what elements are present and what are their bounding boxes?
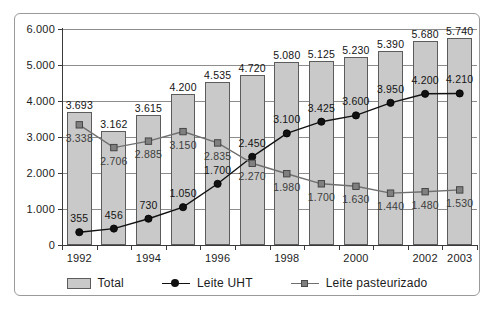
data-point-marker — [111, 144, 117, 150]
data-point-marker — [76, 122, 82, 128]
data-point-marker — [145, 138, 151, 144]
chart-legend: Total Leite UHT Leite pasteurizado — [14, 272, 480, 294]
x-tick-mark — [408, 245, 409, 250]
bar-value-label: 5.740 — [446, 25, 473, 37]
bar-value-label: 5.080 — [273, 49, 300, 61]
data-point-marker — [422, 189, 428, 195]
bar-value-label: 4.200 — [169, 81, 196, 93]
data-point-marker — [456, 90, 463, 97]
legend-swatch-leite-uht-icon — [162, 278, 190, 289]
x-tick-label: 1992 — [67, 252, 92, 264]
data-point-marker — [179, 204, 186, 211]
legend-square-marker-icon — [301, 280, 308, 287]
data-point-label: 1.530 — [446, 197, 473, 209]
data-point-marker — [352, 112, 359, 119]
bar-value-label: 5.125 — [308, 48, 335, 60]
data-point-marker — [422, 90, 429, 97]
data-point-marker — [318, 181, 324, 187]
data-point-label: 3.425 — [308, 102, 335, 114]
data-point-marker — [145, 215, 152, 222]
data-point-marker — [284, 171, 290, 177]
data-point-label: 1.630 — [342, 193, 369, 205]
y-tick-label: 1.000 — [26, 203, 55, 215]
data-point-marker — [457, 187, 463, 193]
data-point-label: 3.100 — [273, 113, 300, 125]
data-point-marker — [110, 225, 117, 232]
bar-value-label: 5.390 — [377, 38, 404, 50]
legend-label-leite-pasteurizado: Leite pasteurizado — [326, 276, 428, 290]
data-point-marker — [387, 99, 394, 106]
data-point-marker — [353, 183, 359, 189]
data-point-label: 2.450 — [239, 137, 266, 149]
x-tick-label: 1994 — [136, 252, 161, 264]
data-point-label: 355 — [70, 212, 88, 224]
data-point-label: 1.480 — [411, 199, 438, 211]
x-tick-mark — [304, 245, 305, 250]
x-tick-mark — [373, 245, 374, 250]
data-point-label: 2.706 — [100, 155, 127, 167]
bar-value-label: 3.162 — [100, 118, 127, 130]
bar-value-label: 5.230 — [342, 44, 369, 56]
x-tick-mark — [235, 245, 236, 250]
data-point-marker — [180, 128, 186, 134]
bar-value-label: 3.615 — [135, 102, 162, 114]
y-tick-label: 6.000 — [26, 23, 55, 35]
data-point-marker — [283, 130, 290, 137]
line-series-overlay — [62, 29, 477, 245]
y-tick-label: 0 — [49, 239, 55, 251]
data-point-marker — [249, 160, 255, 166]
chart-figure: 01.0002.0003.0004.0005.0006.000 3.6933.1… — [0, 0, 494, 312]
legend-item-leite-uht[interactable]: Leite UHT — [162, 276, 253, 290]
x-tick-mark — [97, 245, 98, 250]
data-point-marker — [249, 153, 256, 160]
y-tick-label: 5.000 — [26, 59, 55, 71]
x-tick-mark — [166, 245, 167, 250]
data-point-label: 2.270 — [239, 170, 266, 182]
x-tick-label: 2000 — [343, 252, 368, 264]
data-point-label: 1.980 — [273, 181, 300, 193]
y-tick-label: 3.000 — [26, 131, 55, 143]
y-tick-label: 4.000 — [26, 95, 55, 107]
x-tick-mark — [339, 245, 340, 250]
x-tick-mark — [270, 245, 271, 250]
data-point-label: 3.950 — [377, 83, 404, 95]
data-point-label: 4.210 — [446, 73, 473, 85]
legend-label-leite-uht: Leite UHT — [197, 276, 253, 290]
data-point-label: 1.700 — [204, 164, 231, 176]
data-point-marker — [76, 229, 83, 236]
bar-value-label: 4.535 — [204, 69, 231, 81]
x-tick-label: 1996 — [205, 252, 230, 264]
data-point-label: 4.200 — [411, 74, 438, 86]
legend-item-leite-pasteurizado[interactable]: Leite pasteurizado — [291, 276, 428, 290]
data-point-label: 3.338 — [66, 132, 93, 144]
data-point-label: 1.050 — [169, 187, 196, 199]
legend-label-total: Total — [98, 276, 124, 290]
legend-item-total[interactable]: Total — [67, 276, 124, 290]
x-tick-mark — [477, 245, 478, 250]
x-tick-label: 1998 — [274, 252, 299, 264]
x-tick-mark — [62, 245, 63, 250]
plot-area: 01.0002.0003.0004.0005.0006.000 3.6933.1… — [62, 29, 477, 245]
data-point-marker — [214, 180, 221, 187]
bar-value-label: 5.680 — [411, 28, 438, 40]
legend-circle-marker-icon — [171, 279, 179, 287]
data-point-marker — [318, 118, 325, 125]
x-tick-label: 2003 — [447, 252, 472, 264]
data-point-label: 1.700 — [308, 191, 335, 203]
data-point-label: 1.440 — [377, 200, 404, 212]
bar-value-label: 4.720 — [239, 62, 266, 74]
x-tick-mark — [131, 245, 132, 250]
legend-swatch-leite-pasteurizado-icon — [291, 278, 319, 289]
data-point-label: 3.150 — [169, 139, 196, 151]
legend-swatch-total-icon — [67, 278, 91, 289]
data-point-label: 3.600 — [342, 95, 369, 107]
x-tick-label: 2002 — [412, 252, 437, 264]
x-tick-mark — [442, 245, 443, 250]
data-point-label: 456 — [105, 209, 123, 221]
data-point-label: 730 — [139, 199, 157, 211]
data-point-label: 2.835 — [204, 150, 231, 162]
x-tick-mark — [200, 245, 201, 250]
data-point-label: 2.885 — [135, 148, 162, 160]
data-point-marker — [387, 190, 393, 196]
y-tick-label: 2.000 — [26, 167, 55, 179]
